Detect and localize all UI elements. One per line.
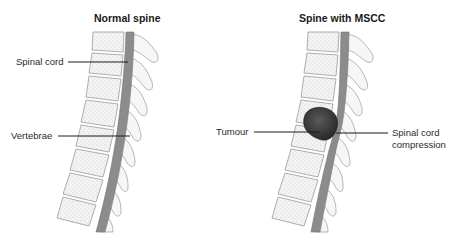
tumour-label: Tumour: [216, 126, 248, 138]
vertebrae-label: Vertebrae: [11, 130, 52, 142]
normal-spine-title: Normal spine: [94, 12, 161, 24]
compression-label-line2: compression: [392, 139, 446, 151]
mscc-spine-title: Spine with MSCC: [299, 12, 385, 24]
compression-label-line1: Spinal cord: [392, 127, 446, 139]
spinal-cord-compression-label: Spinal cord compression: [392, 127, 446, 151]
spinal-cord-label: Spinal cord: [16, 56, 64, 68]
diagram-canvas: [0, 0, 458, 235]
